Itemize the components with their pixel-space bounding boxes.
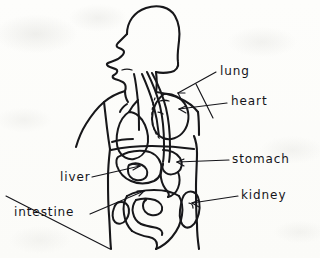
label-kidney: kidney: [241, 188, 286, 202]
label-intestine: intestine: [14, 205, 74, 219]
anatomy-sketch-canvas: lung heart stomach kidney liver intestin…: [0, 0, 320, 258]
label-heart: heart: [231, 94, 267, 108]
label-lung: lung: [220, 64, 250, 78]
intestine-organ: [113, 190, 183, 249]
label-stomach: stomach: [232, 152, 290, 166]
diaphragm-line: [111, 139, 194, 150]
leader-line-intestine: [90, 191, 144, 214]
leader-line-stomach: [177, 159, 229, 166]
organ-labels: lung heart stomach kidney liver intestin…: [14, 64, 290, 219]
label-liver: liver: [60, 170, 91, 184]
